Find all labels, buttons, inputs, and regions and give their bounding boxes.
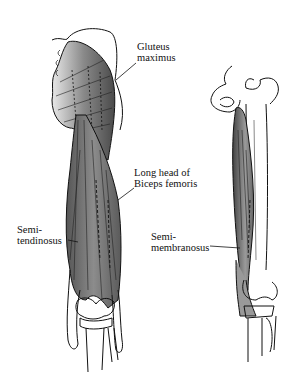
label-semimembranosus: Semi- membranosus [151,231,209,253]
label-biceps-femoris: Long head of Biceps femoris [134,167,197,189]
deep-view [211,66,278,362]
semimembranosus-leader [210,246,240,248]
gluteus-leader [116,63,136,80]
label-semitendinosus: Semi- tendinosus [17,224,62,246]
label-gluteus-maximus: Gluteus maximus [137,41,176,63]
posterior-view [52,29,123,372]
biceps-leader [118,188,134,200]
